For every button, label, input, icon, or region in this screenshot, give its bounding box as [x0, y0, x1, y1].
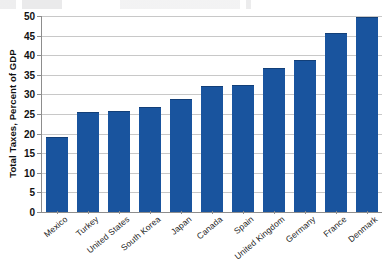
y-tick-label: 5	[29, 187, 35, 198]
x-tick-mark	[181, 211, 182, 214]
y-tick-mark	[37, 75, 41, 76]
y-tick-mark	[37, 114, 41, 115]
y-tick-mark	[37, 134, 41, 135]
y-tick-mark	[37, 153, 41, 154]
bar	[108, 111, 130, 212]
y-tick-label: 45	[24, 30, 35, 41]
y-axis-line	[41, 16, 42, 212]
bar	[263, 68, 285, 212]
x-axis-labels: MexicoTurkeyUnited StatesSouth KoreaJapa…	[41, 214, 382, 279]
x-axis-label: Canada	[194, 214, 224, 241]
bar	[170, 99, 192, 212]
x-tick-mark	[305, 211, 306, 214]
y-tick-label: 50	[24, 11, 35, 22]
plot-area	[41, 16, 382, 212]
bar-series	[41, 16, 382, 212]
x-axis-label: Germany	[283, 214, 317, 245]
y-tick-label: 30	[24, 89, 35, 100]
y-tick-label: 25	[24, 109, 35, 120]
bar	[77, 112, 99, 212]
x-axis-label: Turkey	[73, 214, 100, 239]
x-tick-mark	[119, 211, 120, 214]
x-tick-mark	[88, 211, 89, 214]
y-axis-title: Total Taxes, Percent of GDP	[7, 14, 18, 214]
bar	[201, 86, 223, 212]
y-tick-label: 20	[24, 128, 35, 139]
bar-chart: Total Taxes, Percent of GDP 051015202530…	[0, 0, 382, 279]
y-tick-mark	[37, 36, 41, 37]
x-axis-label: Japan	[168, 214, 193, 237]
y-tick-label: 35	[24, 69, 35, 80]
y-tick-label: 40	[24, 50, 35, 61]
x-tick-mark	[336, 211, 337, 214]
y-tick-label: 10	[24, 167, 35, 178]
bar	[46, 137, 68, 212]
y-tick-mark	[37, 16, 41, 17]
x-tick-mark	[212, 211, 213, 214]
y-tick-mark	[37, 212, 41, 213]
y-tick-mark	[37, 94, 41, 95]
x-axis-label: France	[321, 214, 348, 239]
x-tick-mark	[57, 211, 58, 214]
x-tick-mark	[150, 211, 151, 214]
y-tick-mark	[37, 55, 41, 56]
x-tick-mark	[243, 211, 244, 214]
y-tick-label: 0	[29, 207, 35, 218]
bar	[325, 33, 347, 212]
x-axis-label: Denmark	[346, 214, 379, 244]
x-axis-label: Spain	[231, 214, 254, 236]
bar	[139, 107, 161, 212]
x-tick-mark	[367, 211, 368, 214]
bar	[232, 85, 254, 212]
bar	[356, 17, 378, 212]
bar	[294, 60, 316, 212]
x-tick-mark	[274, 211, 275, 214]
y-tick-label: 15	[24, 148, 35, 159]
y-tick-mark	[37, 192, 41, 193]
x-axis-label: Mexico	[41, 214, 69, 239]
y-tick-mark	[37, 173, 41, 174]
